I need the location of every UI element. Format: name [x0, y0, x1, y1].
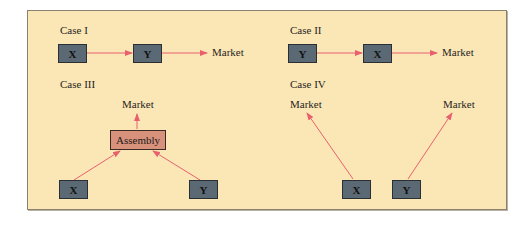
case-1-node-x: X — [58, 44, 87, 63]
case-3-assembly: Assembly — [110, 130, 166, 150]
case-4-node-y: Y — [392, 180, 421, 199]
case-4-title: Case IV — [290, 78, 326, 90]
case-3-node-x: X — [59, 180, 88, 199]
case-1-node-y: Y — [133, 44, 162, 63]
case-4-market-right: Market — [443, 98, 475, 110]
case-2-title: Case II — [290, 24, 321, 36]
case-3-market: Market — [122, 98, 154, 110]
arrow-x-to-market — [307, 113, 353, 179]
case-3-node-y: Y — [189, 180, 218, 199]
case-3-title: Case III — [60, 78, 95, 90]
case-2-node-y: Y — [288, 44, 317, 63]
arrow-x-to-assembly — [74, 151, 120, 180]
case-2-node-x: X — [363, 44, 392, 63]
case-4-node-x: X — [342, 180, 371, 199]
arrow-y-to-assembly — [153, 151, 200, 180]
arrow-y-to-market — [408, 113, 452, 179]
case-1-market: Market — [212, 46, 244, 58]
case-2-market: Market — [442, 46, 474, 58]
case-1-title: Case I — [60, 24, 88, 36]
case-4-market-left: Market — [290, 98, 322, 110]
